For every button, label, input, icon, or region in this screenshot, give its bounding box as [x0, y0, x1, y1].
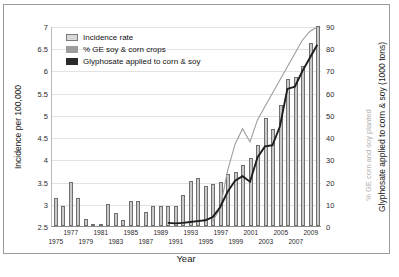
- y-tick-label: 3.5: [38, 178, 48, 187]
- legend-swatch-icon: [66, 34, 78, 41]
- x-tick-label: 2009: [303, 229, 318, 236]
- y-tick-label: 5: [44, 111, 48, 120]
- x-tick-label: 1999: [228, 238, 243, 245]
- secondary-y-tick-label: 0: [326, 223, 330, 232]
- x-tick-label: 1997: [213, 229, 228, 236]
- x-tick-label: 1993: [183, 229, 198, 236]
- legend-item[interactable]: % GE soy & corn crops: [66, 45, 200, 54]
- secondary-y-tick-label: 70: [326, 67, 334, 76]
- secondary-y-axis-title: Glyphosate applied to corn & soy (1000 t…: [377, 42, 387, 212]
- x-tick-label: 1991: [168, 238, 183, 245]
- secondary-y-tick-label: 30: [326, 156, 334, 165]
- x-tick-label: 1981: [93, 229, 108, 236]
- x-tick-label: 2003: [258, 238, 273, 245]
- secondary-y-tick-label: 20: [326, 178, 334, 187]
- x-tick-label: 2001: [243, 229, 258, 236]
- legend-item[interactable]: Incidence rate: [66, 33, 200, 42]
- x-tick-label: 2005: [273, 229, 288, 236]
- chart-legend: Incidence rate% GE soy & corn cropsGlyph…: [66, 33, 200, 69]
- x-tick-label: 1989: [153, 229, 168, 236]
- x-tick-label: 1983: [108, 238, 123, 245]
- y-tick-label: 6.5: [38, 45, 48, 54]
- y-tick-label: 7: [44, 23, 48, 32]
- x-axis-title: Year: [51, 253, 321, 264]
- secondary-y-tick-label: 90: [326, 23, 334, 32]
- y-tick-label: 5.5: [38, 89, 48, 98]
- y-tick-label: 2.5: [38, 223, 48, 232]
- chart-frame: Incidence per 100,000 Glyphosate applied…: [3, 4, 390, 254]
- legend-swatch-icon: [66, 46, 78, 53]
- secondary-y-axis-title-alt: % GE corn and soy planted: [364, 109, 373, 200]
- secondary-y-tick-label: 10: [326, 200, 334, 209]
- secondary-y-tick-label: 40: [326, 134, 334, 143]
- secondary-y-tick-label: 60: [326, 89, 334, 98]
- secondary-y-tick-label: 80: [326, 45, 334, 54]
- legend-label: Incidence rate: [83, 33, 133, 42]
- legend-item[interactable]: Glyphosate applied to corn & soy: [66, 57, 200, 66]
- x-tick-label: 1987: [138, 238, 153, 245]
- x-tick-label: 1995: [198, 238, 213, 245]
- y-tick-label: 4.5: [38, 134, 48, 143]
- y-tick-label: 4: [44, 156, 48, 165]
- y-tick-label: 6: [44, 67, 48, 76]
- x-tick-label: 2007: [288, 238, 303, 245]
- legend-swatch-icon: [66, 58, 78, 65]
- y-tick-label: 3: [44, 200, 48, 209]
- x-tick-label: 1977: [63, 229, 78, 236]
- x-tick-label: 1975: [48, 238, 63, 245]
- legend-label: % GE soy & corn crops: [83, 45, 166, 54]
- x-tick-label: 1979: [78, 238, 93, 245]
- y-axis-title: Incidence per 100,000: [13, 85, 23, 169]
- secondary-y-tick-label: 50: [326, 111, 334, 120]
- x-tick-label: 1985: [123, 229, 138, 236]
- legend-label: Glyphosate applied to corn & soy: [83, 57, 200, 66]
